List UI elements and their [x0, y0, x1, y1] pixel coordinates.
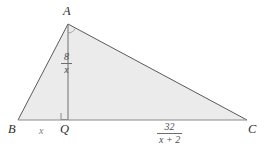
- vertex-label-q: Q: [60, 123, 69, 136]
- vertex-label-b: B: [8, 123, 16, 136]
- geometry-figure: A B Q C x 8 x 32 x + 2: [0, 0, 264, 149]
- fraction-numerator: 32: [163, 122, 177, 133]
- segment-label-bq: x: [39, 126, 43, 136]
- segment-label-aq-fraction: 8 x: [61, 52, 72, 75]
- vertex-label-a: A: [63, 5, 71, 18]
- fraction-denominator: x: [62, 64, 70, 75]
- triangle-abc-fill: [18, 24, 247, 120]
- vertex-label-c: C: [248, 123, 256, 136]
- fraction-numerator: 8: [62, 52, 71, 63]
- segment-label-qc-fraction: 32 x + 2: [157, 122, 182, 145]
- fraction-denominator: x + 2: [157, 134, 182, 145]
